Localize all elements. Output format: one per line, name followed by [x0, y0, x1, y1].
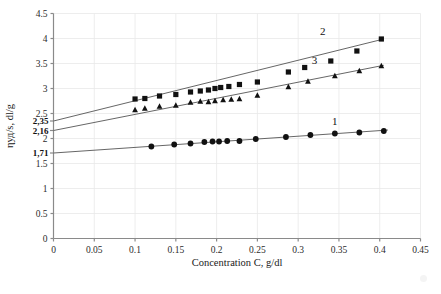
data-point-circle-1 — [381, 128, 387, 134]
y-intercept-label: 2,16 — [33, 126, 49, 136]
data-point-triangle-3 — [157, 103, 163, 109]
data-point-square-2 — [157, 93, 162, 98]
data-point-triangle-3 — [142, 105, 148, 111]
x-tick-label: 0.4 — [374, 245, 386, 255]
y-tick-label: 3.5 — [36, 59, 48, 69]
data-point-square-2 — [218, 85, 223, 90]
series-label-1: 1 — [332, 115, 338, 127]
data-point-square-2 — [142, 96, 147, 101]
scatter-chart: 00.511.522.533.544.500.050.10.150.20.250… — [0, 0, 441, 294]
data-point-circle-1 — [224, 138, 230, 144]
data-point-circle-1 — [308, 132, 314, 138]
x-tick-label: 0.45 — [412, 245, 429, 255]
data-point-triangle-3 — [254, 92, 260, 98]
y-axis-title: ηуд/s, dl/g — [4, 103, 15, 148]
data-point-square-2 — [379, 36, 384, 41]
data-point-square-2 — [237, 82, 242, 87]
data-point-triangle-3 — [132, 107, 138, 113]
data-point-circle-1 — [253, 136, 259, 142]
series-fit-line-2 — [54, 39, 384, 121]
data-point-circle-1 — [332, 131, 338, 137]
data-point-triangle-3 — [237, 96, 243, 102]
data-point-square-2 — [198, 88, 203, 93]
data-point-circle-1 — [356, 130, 362, 136]
data-point-square-2 — [212, 86, 217, 91]
x-tick-label: 0.25 — [249, 245, 266, 255]
data-point-triangle-3 — [188, 99, 194, 105]
data-point-square-2 — [328, 58, 333, 63]
series-label-3: 3 — [312, 54, 318, 66]
series-label-2: 2 — [320, 25, 326, 37]
x-tick-label: 0.3 — [292, 245, 304, 255]
x-tick-label: 0.05 — [86, 245, 103, 255]
data-point-square-2 — [226, 84, 231, 89]
data-point-square-2 — [173, 92, 178, 97]
data-point-circle-1 — [210, 139, 216, 145]
chart-canvas: 00.511.522.533.544.500.050.10.150.20.250… — [0, 0, 441, 294]
x-tick-label: 0.35 — [331, 245, 348, 255]
x-axis-title: Concentration C, g/dl — [192, 257, 283, 268]
x-tick-label: 0 — [51, 245, 56, 255]
data-point-circle-1 — [237, 138, 243, 144]
data-point-triangle-3 — [173, 102, 179, 108]
y-tick-label: 0.5 — [36, 209, 48, 219]
y-tick-label: 1 — [43, 184, 48, 194]
data-point-square-2 — [302, 65, 307, 70]
x-tick-label: 0.2 — [211, 245, 223, 255]
x-tick-label: 0.1 — [129, 245, 141, 255]
data-point-square-2 — [188, 89, 193, 94]
y-tick-label: 1.5 — [36, 159, 48, 169]
data-point-square-2 — [286, 69, 291, 74]
data-point-circle-1 — [148, 144, 154, 150]
data-point-square-2 — [255, 79, 260, 84]
data-point-circle-1 — [216, 139, 222, 145]
y-tick-label: 4.5 — [36, 9, 48, 19]
x-tick-label: 0.15 — [168, 245, 185, 255]
data-point-square-2 — [354, 48, 359, 53]
data-point-triangle-3 — [228, 96, 234, 102]
corner-artifact — [420, 275, 427, 282]
y-tick-label: 0 — [43, 234, 48, 244]
data-point-circle-1 — [201, 139, 207, 145]
y-tick-label: 3 — [43, 84, 48, 94]
y-intercept-label: 1,71 — [33, 148, 49, 158]
data-point-square-2 — [206, 87, 211, 92]
data-point-square-2 — [132, 96, 137, 101]
data-point-circle-1 — [188, 141, 194, 147]
data-point-circle-1 — [283, 134, 289, 140]
data-point-circle-1 — [171, 142, 177, 148]
y-intercept-label: 2,35 — [33, 116, 49, 126]
y-tick-label: 4 — [43, 34, 48, 44]
